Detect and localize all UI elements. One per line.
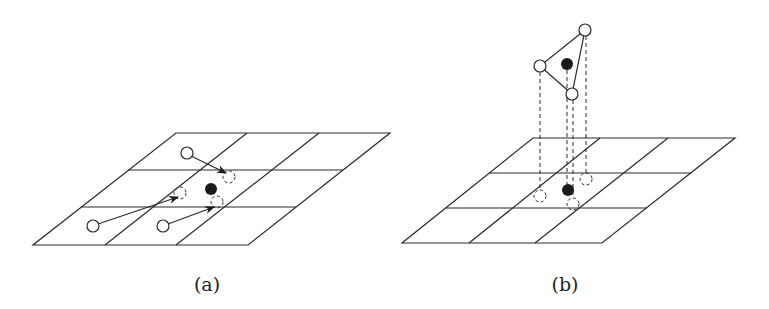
target-point-b-projected: [562, 184, 574, 196]
motion-arrow-a-2: [98, 197, 178, 224]
caption-a: (a): [194, 273, 220, 295]
grid-b-vline-2: [535, 138, 668, 243]
triangle-vertex-b-2: [534, 60, 546, 72]
source-point-a-1: [181, 147, 193, 159]
projected-point-b-2: [580, 173, 592, 185]
panel-a: (a): [33, 133, 390, 295]
target-point-b-elevated: [561, 58, 573, 70]
grid-b-vline-1: [469, 138, 600, 243]
caption-b: (b): [552, 273, 579, 295]
grid-a-vline-2: [176, 133, 319, 245]
projected-point-b-1: [534, 190, 546, 202]
target-point-a: [205, 183, 217, 195]
panel-b: (b): [402, 24, 735, 295]
source-point-a-2: [87, 220, 99, 232]
source-point-a-3: [157, 220, 169, 232]
triangle-vertex-b-1: [579, 24, 591, 36]
displaced-point-a-3: [211, 196, 223, 208]
figure-canvas: (a) (b): [0, 0, 769, 309]
motion-arrow-a-3: [168, 207, 214, 224]
triangle-vertex-b-3: [566, 88, 578, 100]
